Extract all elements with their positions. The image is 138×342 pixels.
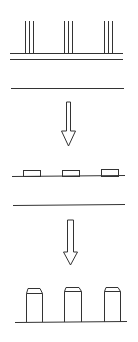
pillars	[27, 288, 121, 323]
beam-group-2	[65, 21, 73, 53]
separator-line-2	[13, 205, 125, 206]
pillar-baseline	[15, 322, 127, 323]
beam-group-3	[105, 21, 113, 53]
down-arrow-icon	[62, 102, 76, 146]
down-arrow-icon	[64, 220, 78, 265]
beam-group-1	[26, 21, 34, 53]
process-diagram	[0, 0, 138, 342]
